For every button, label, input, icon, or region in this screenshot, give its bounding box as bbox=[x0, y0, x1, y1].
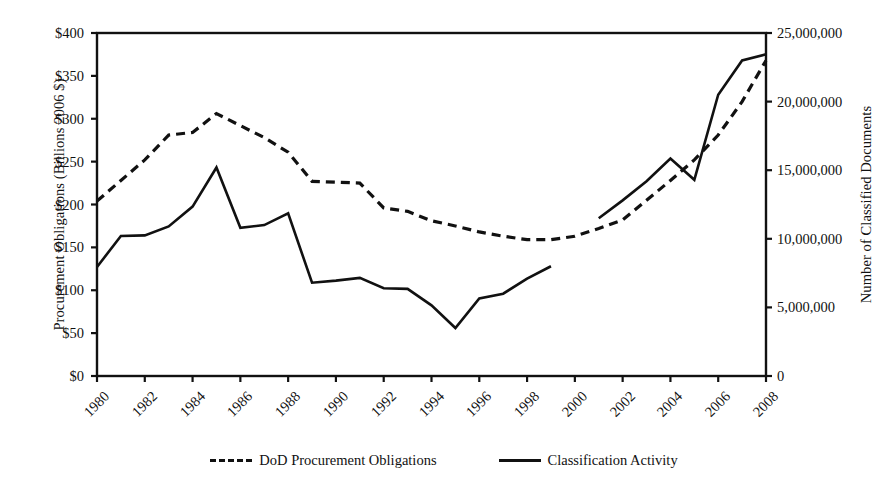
legend-item-label: DoD Procurement Obligations bbox=[259, 452, 436, 469]
left-axis-tick-label: $0 bbox=[0, 369, 84, 384]
right-axis-tick-label: 0 bbox=[777, 369, 784, 384]
right-axis-tick-label: 10,000,000 bbox=[777, 232, 842, 247]
series-line-1 bbox=[97, 60, 766, 239]
right-axis-title: Number of Classified Documents bbox=[858, 25, 875, 385]
series-line-2-segment-1 bbox=[97, 167, 551, 328]
right-axis-tick-label: 15,000,000 bbox=[777, 163, 842, 178]
legend-item-2[interactable]: Classification Activity bbox=[499, 452, 678, 469]
plot-frame bbox=[97, 33, 766, 376]
dashed-line-icon bbox=[210, 459, 252, 462]
left-axis-tick-label: $300 bbox=[0, 112, 84, 127]
left-axis-tick-label: $350 bbox=[0, 69, 84, 84]
legend-item-label: Classification Activity bbox=[548, 452, 678, 469]
chart-legend: DoD Procurement ObligationsClassificatio… bbox=[0, 452, 888, 469]
right-axis-tick-label: 5,000,000 bbox=[777, 300, 835, 315]
axes bbox=[97, 33, 766, 376]
left-axis-tick-label: $400 bbox=[0, 26, 84, 41]
left-axis-tick-label: $200 bbox=[0, 197, 84, 212]
dual-axis-line-chart: Procurement Obligations (Billions 2006 $… bbox=[0, 0, 888, 488]
series-line-2-segment-2 bbox=[599, 54, 766, 218]
right-axis-tick-label: 20,000,000 bbox=[777, 94, 842, 109]
left-axis-tick-label: $100 bbox=[0, 283, 84, 298]
solid-line-icon bbox=[499, 459, 541, 462]
left-axis-tick-label: $50 bbox=[0, 326, 84, 341]
data-series bbox=[97, 54, 766, 328]
legend-item-1[interactable]: DoD Procurement Obligations bbox=[210, 452, 436, 469]
left-axis-tick-label: $150 bbox=[0, 240, 84, 255]
left-axis-tick-label: $250 bbox=[0, 154, 84, 169]
right-axis-tick-label: 25,000,000 bbox=[777, 26, 842, 41]
